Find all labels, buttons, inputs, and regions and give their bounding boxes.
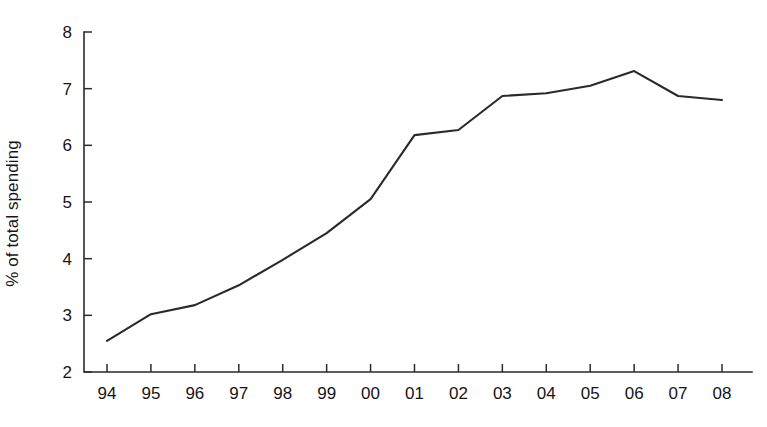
x-tick-label: 07 [669,384,688,403]
x-tick-label: 05 [581,384,600,403]
y-tick-group: 2345678 [63,23,92,382]
x-tick-label: 97 [229,384,248,403]
y-tick-label: 8 [63,23,72,42]
chart-container: % of total spending 2345678 949596979899… [0,0,767,427]
x-tick-label: 94 [98,384,117,403]
line-chart-plot: 2345678 949596979899000102030405060708 [0,0,767,427]
axes-group [84,32,752,372]
x-tick-label: 98 [273,384,292,403]
x-tick-group: 949596979899000102030405060708 [98,364,732,403]
x-tick-label: 95 [141,384,160,403]
x-tick-label: 03 [493,384,512,403]
y-tick-label: 4 [63,250,72,269]
y-tick-label: 7 [63,80,72,99]
x-tick-label: 96 [185,384,204,403]
x-tick-label: 06 [625,384,644,403]
series-group [107,71,722,341]
y-tick-label: 3 [63,306,72,325]
x-tick-label: 08 [713,384,732,403]
axis-lines [84,32,752,372]
x-tick-label: 01 [405,384,424,403]
x-tick-label: 02 [449,384,468,403]
data-series-line [107,71,722,341]
x-tick-label: 99 [317,384,336,403]
y-tick-label: 2 [63,363,72,382]
x-tick-label: 00 [361,384,380,403]
y-tick-label: 6 [63,136,72,155]
y-tick-label: 5 [63,193,72,212]
x-tick-label: 04 [537,384,556,403]
